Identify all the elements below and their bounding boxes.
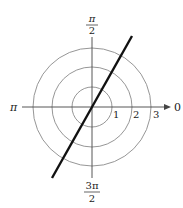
angle-label-pi-over-2-denominator: 2 xyxy=(89,25,95,36)
radius-label-2: 2 xyxy=(133,109,139,120)
angle-label-0: 0 xyxy=(174,101,181,114)
polar-graph: 0 π π 2 3π 2 1 2 3 xyxy=(0,0,183,208)
radius-label-1: 1 xyxy=(113,109,119,120)
angle-label-pi-over-2-numerator: π xyxy=(88,13,96,24)
polar-axes xyxy=(22,37,166,178)
angle-label-3pi-over-2-denominator: 2 xyxy=(89,193,95,204)
arrow-head-icon xyxy=(164,104,171,110)
angle-label-pi: π xyxy=(9,101,18,114)
radius-label-3: 3 xyxy=(153,109,159,120)
angle-label-3pi-over-2-numerator: 3π xyxy=(86,180,99,191)
